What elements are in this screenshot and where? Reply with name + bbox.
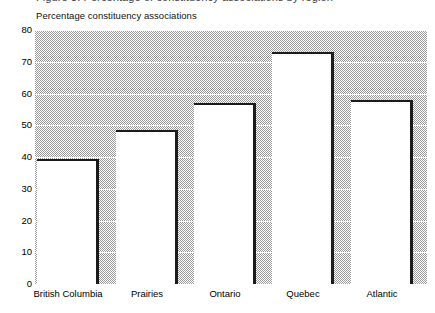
x-axis-tick-label: Atlantic <box>337 288 427 300</box>
gridline <box>35 62 427 63</box>
y-axis-tick-label: 60 <box>6 89 32 99</box>
bar <box>194 103 256 284</box>
y-axis-tick-label: 30 <box>6 184 32 194</box>
chart-figure: Figure 3: Percentage of constituency ass… <box>0 0 435 313</box>
y-axis-tick-labels: 80706050403020100 <box>3 30 32 284</box>
y-axis-tick-label: 80 <box>6 25 32 35</box>
x-axis-tick-label: Ontario <box>180 288 270 300</box>
x-axis-tick-labels: British ColumbiaPrairiesOntarioQuebecAtl… <box>35 288 427 304</box>
y-axis-tick-label: 70 <box>6 57 32 67</box>
bar <box>272 52 334 284</box>
x-axis-tick-label: British Columbia <box>23 288 113 300</box>
x-axis-tick-label: Quebec <box>258 288 348 300</box>
gridline <box>35 284 427 285</box>
bar <box>351 100 413 284</box>
y-axis-tick-label: 40 <box>6 152 32 162</box>
clipped-chart-title: Figure 3: Percentage of constituency ass… <box>36 0 396 3</box>
plot-area <box>35 30 427 284</box>
x-axis-tick-label: Prairies <box>102 288 192 300</box>
gridline <box>35 94 427 95</box>
y-axis-tick-label: 50 <box>6 120 32 130</box>
bar <box>37 159 99 284</box>
gridline <box>35 30 427 31</box>
y-axis-tick-label: 10 <box>6 247 32 257</box>
bar <box>116 130 178 284</box>
chart-axis-caption: Percentage constituency associations <box>36 10 197 21</box>
y-axis-tick-label: 20 <box>6 216 32 226</box>
